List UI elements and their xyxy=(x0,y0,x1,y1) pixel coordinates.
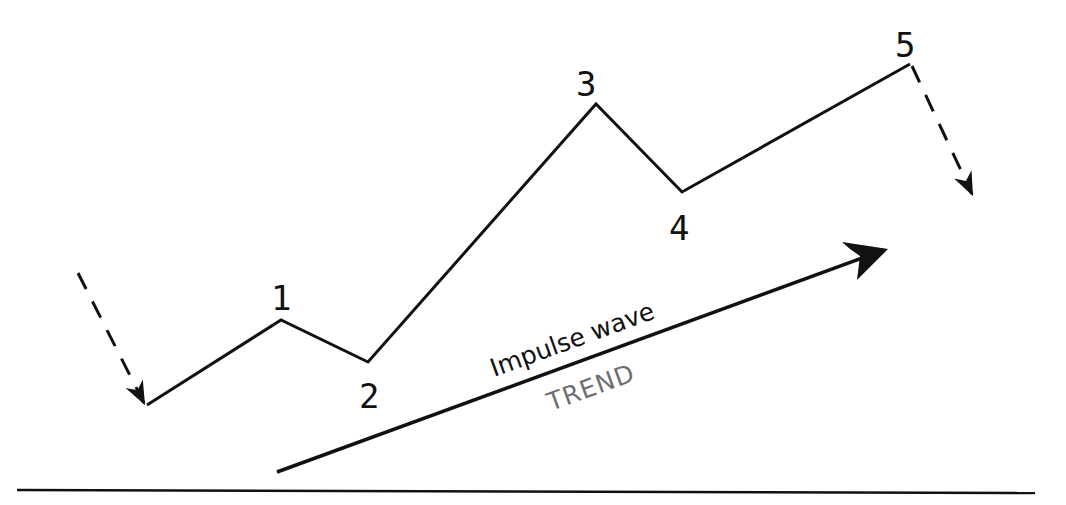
wave-label-2: 2 xyxy=(359,376,379,416)
baseline xyxy=(17,490,1035,493)
wave-label-4: 4 xyxy=(669,208,689,248)
entry-dashed-arrow xyxy=(78,273,144,403)
diagram-canvas: 1 2 3 4 5 Impulse wave TREND xyxy=(0,0,1066,505)
impulse-wave-diagram: 1 2 3 4 5 Impulse wave TREND xyxy=(0,0,1066,505)
wave-label-1: 1 xyxy=(271,278,291,318)
wave-label-5: 5 xyxy=(895,25,915,65)
trend-label: TREND xyxy=(542,358,639,417)
wave-label-3: 3 xyxy=(576,64,596,104)
exit-dashed-arrow xyxy=(912,66,972,194)
